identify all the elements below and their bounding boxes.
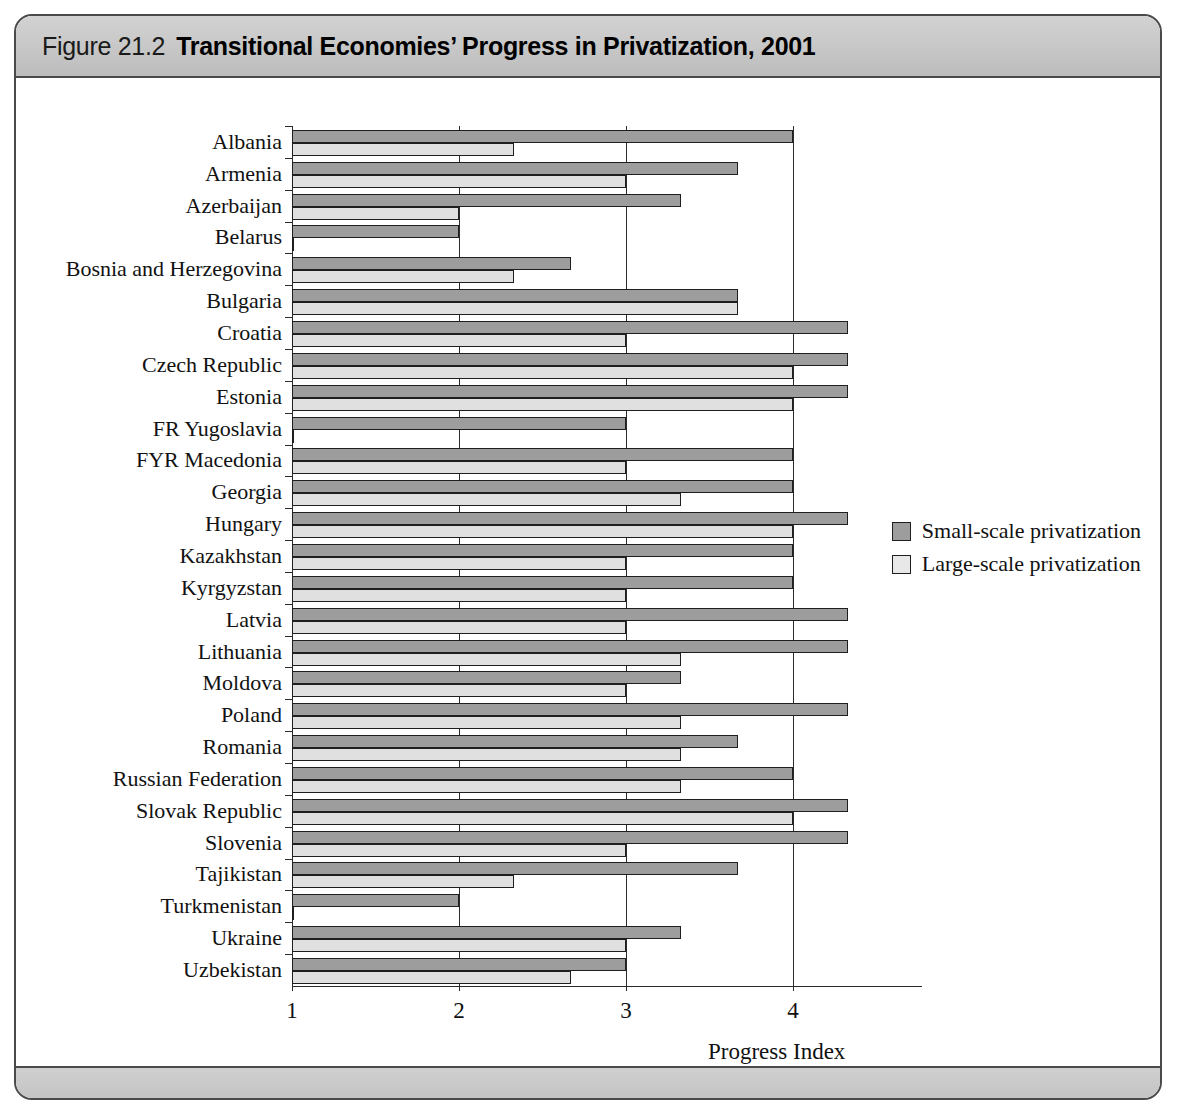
bar-large-scale-bosnia-and-herzegovina: [292, 270, 514, 283]
category-label-slovenia: Slovenia: [205, 832, 282, 854]
bar-small-scale-moldova: [292, 671, 681, 684]
legend-swatch-icon-large-scale: [892, 555, 911, 574]
bar-large-scale-estonia: [292, 398, 793, 411]
y-tick-slovenia: [285, 827, 293, 828]
bar-small-scale-lithuania: [292, 640, 848, 653]
x-axis-title: Progress Index: [708, 1039, 845, 1065]
category-label-latvia: Latvia: [226, 609, 282, 631]
y-tick-bosnia-and-herzegovina: [285, 253, 293, 254]
figure-frame: Figure 21.2 Transitional Economies’ Prog…: [14, 14, 1162, 1100]
bar-small-scale-estonia: [292, 385, 848, 398]
y-tick-poland: [285, 699, 293, 700]
x-tick-3: [626, 982, 627, 991]
category-label-estonia: Estonia: [216, 386, 282, 408]
bar-large-scale-kyrgyzstan: [292, 589, 626, 602]
category-label-turkmenistan: Turkmenistan: [161, 895, 282, 917]
y-tick-lithuania: [285, 636, 293, 637]
bar-chart-plot: AlbaniaArmeniaAzerbaijanBelarusBosnia an…: [16, 78, 1160, 1100]
category-label-georgia: Georgia: [212, 481, 282, 503]
x-tick-4: [793, 982, 794, 991]
gridline-x-4: [793, 126, 794, 986]
bar-large-scale-poland: [292, 716, 681, 729]
category-label-tajikistan: Tajikistan: [196, 863, 282, 885]
y-tick-romania: [285, 731, 293, 732]
category-label-croatia: Croatia: [217, 322, 282, 344]
legend-item-large-scale: Large-scale privatization: [892, 550, 1141, 578]
bar-small-scale-tajikistan: [292, 862, 738, 875]
category-label-armenia: Armenia: [205, 163, 282, 185]
chart-area: AlbaniaArmeniaAzerbaijanBelarusBosnia an…: [16, 78, 1160, 1100]
x-tick-label-1: 1: [272, 999, 312, 1022]
bar-large-scale-georgia: [292, 493, 681, 506]
y-tick-hungary: [285, 508, 293, 509]
bar-small-scale-hungary: [292, 512, 848, 525]
figure-title: Transitional Economies’ Progress in Priv…: [176, 32, 815, 61]
bar-small-scale-poland: [292, 703, 848, 716]
bar-small-scale-belarus: [292, 225, 459, 238]
bar-large-scale-tajikistan: [292, 875, 514, 888]
y-tick-kazakhstan: [285, 540, 293, 541]
category-label-poland: Poland: [221, 704, 282, 726]
bar-large-scale-bulgaria: [292, 302, 738, 315]
category-label-kazakhstan: Kazakhstan: [179, 545, 282, 567]
bar-small-scale-latvia: [292, 608, 848, 621]
y-tick-latvia: [285, 604, 293, 605]
bar-small-scale-albania: [292, 130, 793, 143]
x-axis-line: [292, 986, 922, 987]
category-label-romania: Romania: [203, 736, 282, 758]
legend-label: Small-scale privatization: [922, 517, 1141, 545]
bar-large-scale-ukraine: [292, 939, 626, 952]
y-tick-kyrgyzstan: [285, 572, 293, 573]
category-label-kyrgyzstan: Kyrgyzstan: [181, 577, 282, 599]
bar-small-scale-slovak-republic: [292, 799, 848, 812]
figure-header-band: Figure 21.2 Transitional Economies’ Prog…: [16, 16, 1160, 78]
bar-small-scale-uzbekistan: [292, 958, 626, 971]
bar-small-scale-kazakhstan: [292, 544, 793, 557]
y-tick-slovak-republic: [285, 795, 293, 796]
bar-large-scale-moldova: [292, 684, 626, 697]
bar-large-scale-czech-republic: [292, 366, 793, 379]
y-tick-azerbaijan: [285, 190, 293, 191]
bar-small-scale-georgia: [292, 480, 793, 493]
category-label-bulgaria: Bulgaria: [206, 290, 282, 312]
category-label-czech-republic: Czech Republic: [142, 354, 282, 376]
category-label-ukraine: Ukraine: [211, 927, 282, 949]
category-label-lithuania: Lithuania: [198, 641, 282, 663]
y-tick-fyr-macedonia: [285, 445, 293, 446]
x-tick-label-2: 2: [439, 999, 479, 1022]
category-label-azerbaijan: Azerbaijan: [186, 195, 283, 217]
legend-item-small-scale: Small-scale privatization: [892, 517, 1141, 545]
category-labels-column: AlbaniaArmeniaAzerbaijanBelarusBosnia an…: [16, 78, 288, 1100]
bar-small-scale-ukraine: [292, 926, 681, 939]
bar-small-scale-romania: [292, 735, 738, 748]
y-tick-belarus: [285, 222, 293, 223]
x-tick-label-3: 3: [606, 999, 646, 1022]
bar-small-scale-fr-yugoslavia: [292, 417, 626, 430]
bar-large-scale-fyr-macedonia: [292, 461, 626, 474]
bar-large-scale-russian-federation: [292, 780, 681, 793]
bar-large-scale-turkmenistan: [292, 907, 294, 920]
bar-large-scale-slovak-republic: [292, 812, 793, 825]
figure-footer-band: [16, 1066, 1160, 1098]
y-tick-uzbekistan: [285, 954, 293, 955]
y-tick-bulgaria: [285, 285, 293, 286]
bar-large-scale-kazakhstan: [292, 557, 626, 570]
y-tick-estonia: [285, 381, 293, 382]
x-tick-label-4: 4: [773, 999, 813, 1022]
y-tick-ukraine: [285, 922, 293, 923]
bar-large-scale-hungary: [292, 525, 793, 538]
chart-legend: Small-scale privatizationLarge-scale pri…: [892, 517, 1141, 583]
category-label-russian-federation: Russian Federation: [113, 768, 282, 790]
y-tick-russian-federation: [285, 763, 293, 764]
legend-swatch-icon-small-scale: [892, 522, 911, 541]
bar-small-scale-armenia: [292, 162, 738, 175]
bar-small-scale-czech-republic: [292, 353, 848, 366]
figure-number: Figure 21.2: [42, 32, 165, 61]
bar-small-scale-bulgaria: [292, 289, 738, 302]
category-label-slovak-republic: Slovak Republic: [136, 800, 282, 822]
legend-label: Large-scale privatization: [922, 550, 1141, 578]
y-tick-czech-republic: [285, 349, 293, 350]
bar-large-scale-latvia: [292, 621, 626, 634]
bar-large-scale-lithuania: [292, 653, 681, 666]
y-tick-croatia: [285, 317, 293, 318]
